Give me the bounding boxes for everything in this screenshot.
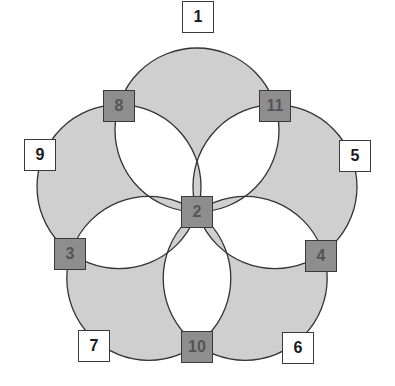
node-label: 7: [90, 337, 99, 355]
node-7: 7: [78, 330, 110, 362]
node-3: 3: [54, 238, 86, 270]
node-label: 9: [36, 146, 45, 164]
node-4: 4: [305, 240, 337, 272]
flower-diagram: [0, 0, 395, 386]
node-label: 4: [317, 247, 326, 265]
node-10: 10: [181, 331, 213, 363]
node-label: 3: [66, 245, 75, 263]
node-label: 2: [193, 203, 202, 221]
node-6: 6: [282, 332, 314, 364]
node-label: 10: [188, 338, 206, 356]
node-label: 11: [267, 97, 284, 115]
node-9: 9: [24, 139, 56, 171]
node-11: 11: [259, 90, 291, 122]
node-label: 6: [294, 339, 303, 357]
node-label: 1: [194, 8, 203, 26]
node-label: 5: [351, 147, 360, 165]
node-2: 2: [181, 196, 213, 228]
node-label: 8: [115, 97, 124, 115]
node-5: 5: [339, 140, 371, 172]
node-1: 1: [182, 1, 214, 33]
node-8: 8: [103, 90, 135, 122]
